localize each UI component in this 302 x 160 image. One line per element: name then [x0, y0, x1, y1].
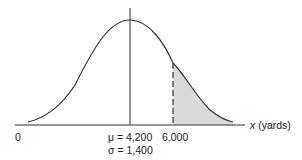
x-axis-variable: x: [250, 119, 255, 131]
shaded-tail-region: [173, 63, 233, 125]
tick-label-6000: 6,000: [162, 131, 188, 143]
x-axis-unit: (yards): [258, 119, 291, 131]
mean-label: μ = 4,200: [108, 131, 152, 143]
sigma-label: σ = 1,400: [108, 144, 153, 156]
x-axis-label: x (yards): [250, 119, 291, 131]
tick-label-zero: 0: [15, 131, 21, 143]
